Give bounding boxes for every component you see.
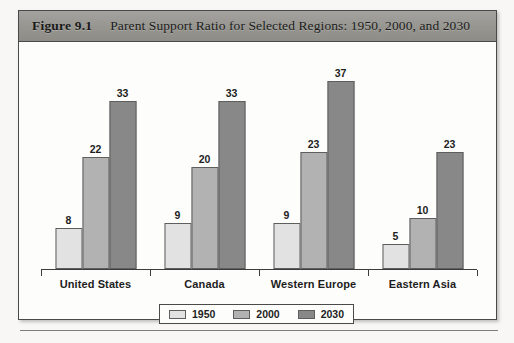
bar-set: 92033	[164, 43, 245, 269]
bar-value-label: 9	[164, 209, 191, 221]
category-label: Western Europe	[259, 278, 368, 290]
category-label: United States	[41, 278, 150, 290]
bar[interactable]	[273, 223, 300, 269]
bar[interactable]	[300, 152, 327, 269]
legend-item[interactable]: 2030	[298, 308, 344, 320]
axis-tick	[368, 270, 369, 276]
bar-column: 22	[82, 43, 109, 269]
bar-value-label: 37	[327, 67, 354, 79]
bar-group: 51023	[368, 43, 477, 269]
bar-groups: 82233920339233751023	[41, 43, 477, 269]
bar[interactable]	[218, 101, 245, 269]
bar[interactable]	[191, 167, 218, 269]
legend-item[interactable]: 2000	[233, 308, 279, 320]
chart-plot-area: 82233920339233751023 United StatesCanada…	[19, 43, 496, 319]
category-label: Canada	[150, 278, 259, 290]
bar[interactable]	[82, 157, 109, 269]
bar-group: 82233	[41, 43, 150, 269]
bar-set: 92337	[273, 43, 354, 269]
legend-swatch	[298, 310, 315, 319]
bar-set: 51023	[382, 43, 463, 269]
axis-tick	[259, 270, 260, 276]
bar-value-label: 10	[409, 204, 436, 216]
page-divider-rule	[20, 330, 498, 331]
bar-value-label: 8	[55, 214, 82, 226]
category-labels: United StatesCanadaWestern EuropeEastern…	[41, 278, 477, 290]
bar-value-label: 9	[273, 209, 300, 221]
axis-tick	[477, 270, 478, 276]
bar-value-label: 22	[82, 143, 109, 155]
bar-column: 37	[327, 43, 354, 269]
bar-value-label: 20	[191, 153, 218, 165]
bar[interactable]	[409, 218, 436, 269]
figure-title: Parent Support Ratio for Selected Region…	[110, 18, 470, 34]
bar-column: 9	[273, 43, 300, 269]
bar-value-label: 33	[218, 87, 245, 99]
legend-swatch	[169, 310, 186, 319]
bar[interactable]	[327, 81, 354, 269]
bar[interactable]	[109, 101, 136, 269]
bar[interactable]	[382, 244, 409, 269]
figure-header: Figure 9.1 Parent Support Ratio for Sele…	[19, 11, 496, 42]
category-label: Eastern Asia	[368, 278, 477, 290]
bar-column: 10	[409, 43, 436, 269]
bar-column: 33	[109, 43, 136, 269]
bar-column: 8	[55, 43, 82, 269]
legend-swatch	[233, 310, 250, 319]
bar-value-label: 5	[382, 230, 409, 242]
legend-label: 2030	[321, 308, 344, 320]
axis-tick	[41, 270, 42, 276]
figure-number: Figure 9.1	[32, 18, 92, 34]
bar-column: 5	[382, 43, 409, 269]
bar-value-label: 33	[109, 87, 136, 99]
bar-set: 82233	[55, 43, 136, 269]
bar-column: 23	[300, 43, 327, 269]
bar[interactable]	[164, 223, 191, 269]
bar-group: 92033	[150, 43, 259, 269]
bar-column: 9	[164, 43, 191, 269]
legend-item[interactable]: 1950	[169, 308, 215, 320]
figure-box: Figure 9.1 Parent Support Ratio for Sele…	[18, 10, 497, 320]
bar-column: 33	[218, 43, 245, 269]
axis-tick	[150, 270, 151, 276]
bar[interactable]	[436, 152, 463, 269]
chart-legend: 195020002030	[159, 304, 354, 324]
bar-value-label: 23	[300, 138, 327, 150]
bar-group: 92337	[259, 43, 368, 269]
bar-value-label: 23	[436, 138, 463, 150]
bar[interactable]	[55, 228, 82, 269]
legend-label: 2000	[256, 308, 279, 320]
bar-column: 20	[191, 43, 218, 269]
bar-column: 23	[436, 43, 463, 269]
legend-label: 1950	[192, 308, 215, 320]
